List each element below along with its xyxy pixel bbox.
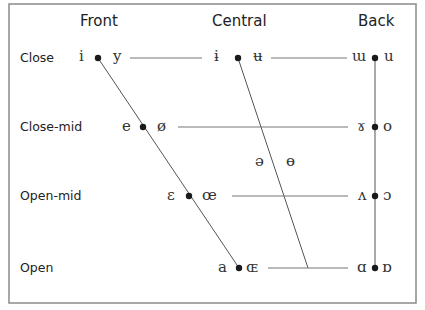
vowel-oe-ligature: œ — [202, 186, 217, 204]
vowel-u: u — [384, 47, 394, 65]
vowel-turned-m: ɯ — [352, 47, 366, 65]
vowel-schwa: ə — [255, 152, 264, 170]
vowel-o-slash: ø — [157, 117, 166, 135]
vowel-turned-script-a: ɒ — [382, 258, 392, 276]
vowel-turned-v: ʌ — [357, 186, 367, 204]
row-label-open-mid: Open-mid — [20, 188, 81, 203]
vowel-open-o: ɔ — [383, 186, 391, 204]
open-mid-front-dot — [186, 193, 192, 199]
vowel-y: y — [112, 47, 122, 65]
vowel-chart: Front Central Back Close Close-mid Open-… — [0, 0, 425, 310]
close-mid-back-dot — [372, 124, 378, 130]
vowel-epsilon: ɛ — [167, 186, 175, 204]
vowel-small-cap-oe: ɶ — [246, 258, 258, 276]
vowel-a: a — [218, 258, 227, 276]
vowel-e: e — [122, 117, 131, 135]
row-label-close-mid: Close-mid — [20, 119, 82, 134]
vowel-barred-u: ʉ — [253, 47, 263, 65]
header-front: Front — [80, 12, 118, 30]
vowel-o: o — [383, 117, 392, 135]
open-front-dot — [236, 265, 242, 271]
header-central: Central — [212, 12, 267, 30]
open-mid-back-dot — [372, 193, 378, 199]
vowel-barred-o: ɵ — [286, 152, 295, 170]
open-back-dot — [372, 265, 378, 271]
close-central-dot — [235, 55, 241, 61]
vowel-i: i — [79, 47, 84, 65]
header-back: Back — [358, 12, 395, 30]
vowel-ram-horns: ɤ — [357, 117, 365, 135]
row-label-open: Open — [20, 260, 53, 275]
row-label-close: Close — [20, 50, 54, 65]
vowel-barred-i: ɨ — [214, 47, 219, 65]
vowel-script-a: ɑ — [357, 258, 367, 276]
close-back-dot — [372, 55, 378, 61]
close-front-dot — [95, 55, 101, 61]
close-mid-front-dot — [140, 124, 146, 130]
